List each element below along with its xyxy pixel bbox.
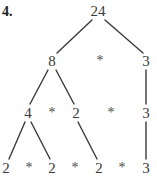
tree-edge bbox=[78, 122, 97, 159]
tree-edge bbox=[57, 20, 92, 53]
tree-edges bbox=[0, 0, 157, 177]
multiply-operator-l1op: * bbox=[97, 54, 104, 68]
tree-node-l2b: 2 bbox=[72, 106, 80, 121]
multiply-operator-l3op2: * bbox=[72, 161, 79, 175]
tree-node-root: 24 bbox=[91, 4, 106, 19]
multiply-operator-l3op1: * bbox=[26, 161, 33, 175]
multiply-operator-l2op1: * bbox=[49, 106, 56, 120]
tree-node-l2c: 3 bbox=[142, 106, 150, 121]
tree-node-l1b: 3 bbox=[142, 54, 150, 69]
multiply-operator-l2op2: * bbox=[108, 106, 115, 120]
tree-node-l3b: 2 bbox=[48, 161, 56, 176]
multiply-operator-l3op3: * bbox=[119, 161, 126, 175]
tree-edge bbox=[9, 122, 25, 159]
tree-edge bbox=[56, 70, 74, 104]
tree-node-l2a: 4 bbox=[24, 106, 32, 121]
tree-edge bbox=[30, 70, 48, 104]
tree-node-l3d: 3 bbox=[142, 161, 150, 176]
factor-tree-figure: 4. 248*34*2*32*2*2*3 bbox=[0, 0, 157, 177]
tree-edge bbox=[31, 122, 50, 159]
tree-edge bbox=[105, 20, 143, 53]
tree-node-l1a: 8 bbox=[48, 54, 56, 69]
tree-node-l3c: 2 bbox=[95, 161, 103, 176]
tree-node-l3a: 2 bbox=[2, 161, 10, 176]
